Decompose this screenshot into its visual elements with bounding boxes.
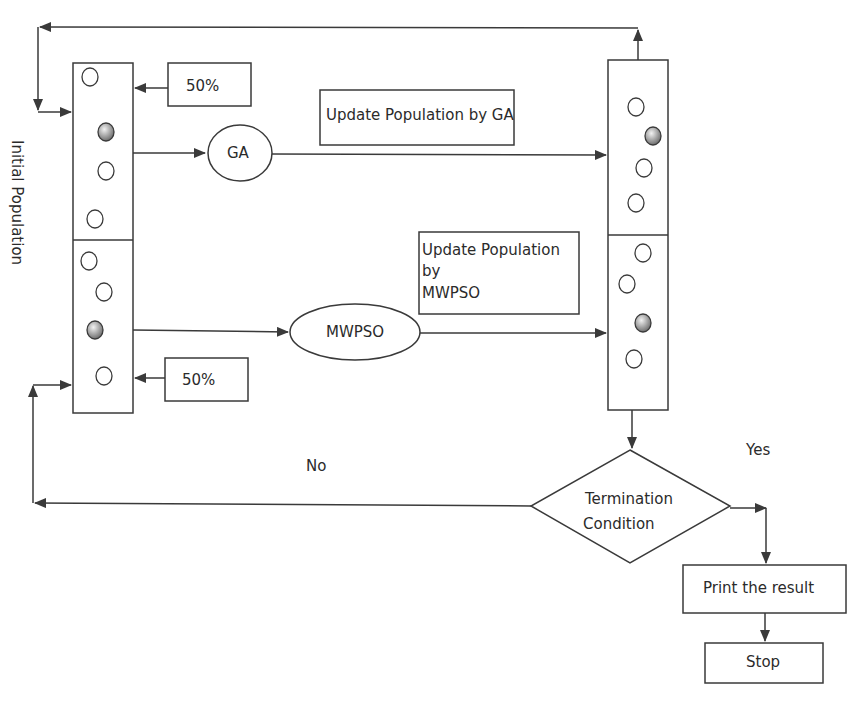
- particle-icon: [82, 68, 98, 86]
- update-mwpso-label-2: by: [422, 262, 440, 281]
- particle-shaded-icon: [98, 123, 114, 141]
- update-mwpso-label-3: MWPSO: [422, 284, 480, 303]
- particle-icon: [628, 194, 644, 212]
- ga-share-label: 50%: [186, 77, 219, 96]
- feedback-loop-line: [40, 27, 638, 28]
- ga-node-label: GA: [227, 144, 249, 163]
- update-mwpso-label-1: Update Population: [422, 241, 560, 260]
- stop-label: Stop: [746, 653, 780, 672]
- initial-population-label-wrap: Initial Population: [8, 140, 28, 310]
- particle-shaded-icon: [87, 321, 103, 339]
- no-branch-line: [35, 503, 531, 506]
- particle-icon: [96, 283, 112, 301]
- particle-icon: [626, 350, 642, 368]
- update-ga-label: Update Population by GA: [326, 106, 514, 125]
- to-mwpso-arrow: [133, 330, 288, 332]
- ga-to-update-arrow: [272, 154, 606, 155]
- yes-label: Yes: [746, 441, 770, 460]
- mwpso-share-label: 50%: [182, 371, 215, 390]
- particle-icon: [96, 367, 112, 385]
- termination-label-1: Termination: [585, 490, 673, 509]
- particle-icon: [81, 252, 97, 270]
- mwpso-node-label: MWPSO: [326, 323, 384, 342]
- particle-shaded-icon: [645, 127, 661, 145]
- initial-population-label: Initial Population: [8, 140, 26, 265]
- particle-icon: [635, 244, 651, 262]
- particle-icon: [636, 159, 652, 177]
- particle-icon: [619, 275, 635, 293]
- particle-icon: [628, 98, 644, 116]
- termination-label-2: Condition: [583, 515, 655, 534]
- initial-population-box: [73, 63, 133, 413]
- particle-icon: [98, 162, 114, 180]
- print-result-label: Print the result: [703, 579, 814, 598]
- particle-icon: [87, 210, 103, 228]
- particle-shaded-icon: [635, 314, 651, 332]
- no-label: No: [306, 457, 326, 476]
